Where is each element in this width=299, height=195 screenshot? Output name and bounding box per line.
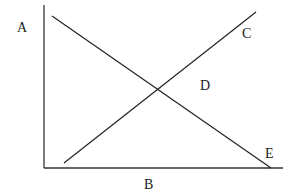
- label-A: A: [17, 21, 27, 35]
- downward-line-A-to-E: [52, 16, 271, 168]
- label-B: B: [144, 178, 153, 192]
- label-D: D: [200, 79, 210, 93]
- diagram-canvas: [0, 0, 299, 195]
- label-C: C: [242, 27, 251, 41]
- upward-line-to-C: [64, 12, 256, 163]
- label-E: E: [265, 147, 274, 161]
